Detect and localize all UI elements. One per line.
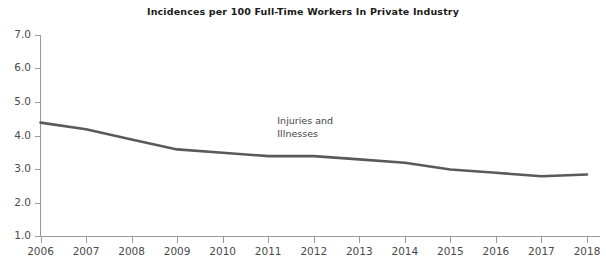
y-tick-label-5: 5.0 (14, 95, 31, 107)
x-tick-label-2008: 2008 (118, 245, 145, 257)
line-chart-plot: 7.0 6.0 5.0 4.0 3.0 2.0 1.0 200620072008… (0, 0, 606, 264)
x-tick-label-2006: 2006 (27, 245, 54, 257)
x-tick-marks (42, 237, 588, 243)
x-tick-labels: 2006200720082009201020112012201320142015… (27, 245, 600, 257)
x-tick-label-2016: 2016 (483, 245, 510, 257)
y-axis: 7.0 6.0 5.0 4.0 3.0 2.0 1.0 (14, 28, 40, 241)
y-tick-label-4: 4.0 (14, 129, 31, 141)
x-tick-label-2010: 2010 (209, 245, 236, 257)
x-tick-label-2018: 2018 (574, 245, 601, 257)
x-tick-label-2013: 2013 (346, 245, 373, 257)
x-tick-label-2007: 2007 (73, 245, 100, 257)
x-tick-label-2014: 2014 (391, 245, 418, 257)
chart-container: Incidences per 100 Full-Time Workers In … (0, 0, 606, 264)
series-annotation-line-2: Illnesses (277, 128, 318, 139)
x-tick-label-2009: 2009 (164, 245, 191, 257)
series-annotation-line-1: Injuries and (277, 115, 333, 126)
x-tick-label-2015: 2015 (437, 245, 464, 257)
x-tick-label-2012: 2012 (300, 245, 327, 257)
x-axis: 2006200720082009201020112012201320142015… (27, 237, 600, 258)
y-tick-label-7: 7.0 (14, 28, 31, 40)
x-tick-label-2011: 2011 (255, 245, 282, 257)
y-tick-label-6: 6.0 (14, 61, 31, 73)
y-tick-label-3: 3.0 (14, 162, 31, 174)
x-tick-label-2017: 2017 (528, 245, 555, 257)
series-annotation-group: Injuries and Illnesses (277, 115, 333, 139)
y-tick-label-1: 1.0 (14, 229, 31, 241)
y-tick-label-2: 2.0 (14, 196, 31, 208)
